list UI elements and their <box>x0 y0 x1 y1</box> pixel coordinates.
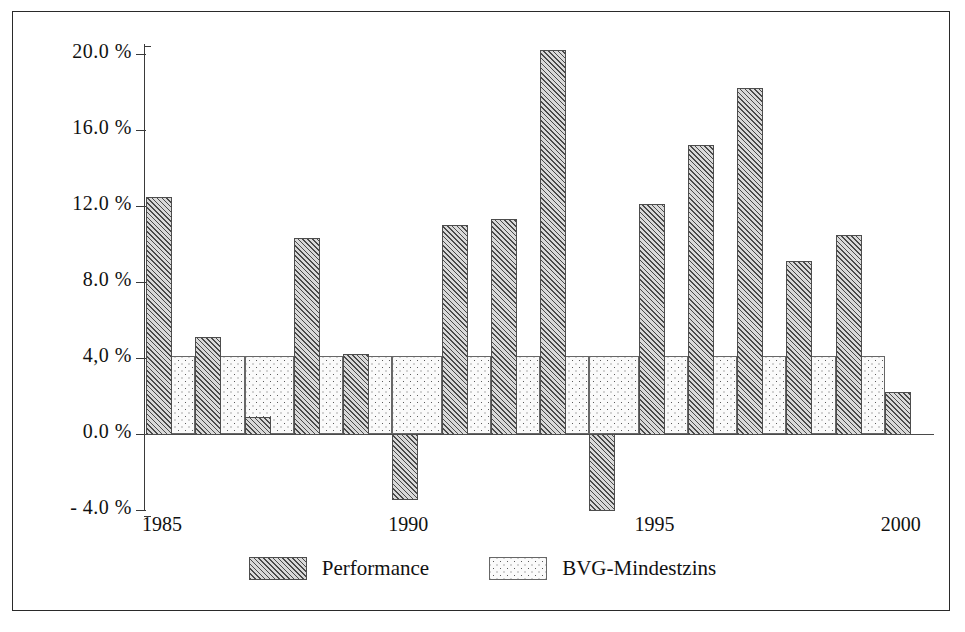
y-axis-tick-label: 12.0 % <box>72 192 132 215</box>
y-axis-tick <box>136 130 146 131</box>
bar-performance <box>540 50 566 435</box>
y-axis-tick-label: 8.0 % <box>83 268 132 291</box>
bar-performance <box>245 417 271 435</box>
legend-swatch-performance-icon <box>249 557 307 580</box>
y-axis-line <box>144 44 145 510</box>
bar-performance <box>786 261 812 435</box>
bar-performance <box>392 434 418 500</box>
y-axis-tick-label: 4,0 % <box>83 344 132 367</box>
y-axis-tick <box>136 206 146 207</box>
x-axis-tick-label: 2000 <box>881 513 921 536</box>
bar-performance <box>491 219 517 435</box>
bar-bvg-mindestzins <box>392 356 441 434</box>
legend-item: BVG-Mindestzins <box>489 556 716 581</box>
x-axis-tick-label: 1995 <box>635 513 675 536</box>
y-axis-end-cap <box>144 46 151 47</box>
bar-performance <box>442 225 468 435</box>
plot-area <box>146 44 934 512</box>
bar-performance <box>885 392 911 435</box>
y-axis-tick <box>136 358 146 359</box>
x-axis-tick-label: 1990 <box>388 513 428 536</box>
y-axis-labels: 20.0 %16.0 %12.0 %8.0 %4,0 %0.0 %- 4.0 % <box>0 0 132 632</box>
bar-performance <box>836 235 862 436</box>
y-axis-tick-label: 0.0 % <box>83 420 132 443</box>
bar-bvg-mindestzins <box>589 356 638 434</box>
bar-performance <box>589 434 615 511</box>
legend-label: BVG-Mindestzins <box>562 556 716 581</box>
chart-figure: 20.0 %16.0 %12.0 %8.0 %4,0 %0.0 %- 4.0 %… <box>0 0 965 632</box>
bar-performance <box>146 197 172 436</box>
bar-performance <box>688 145 714 435</box>
y-axis-tick-label: 20.0 % <box>72 40 132 63</box>
legend-item: Performance <box>249 556 429 581</box>
legend-swatch-bvg-mindestzins-icon <box>489 557 547 580</box>
y-axis-tick-label: 16.0 % <box>72 116 132 139</box>
y-axis-tick <box>136 510 146 511</box>
bar-performance <box>195 337 221 435</box>
bar-performance <box>343 354 369 435</box>
chart-legend: PerformanceBVG-Mindestzins <box>0 556 965 581</box>
y-axis-tick <box>136 54 146 55</box>
bar-performance <box>639 204 665 435</box>
bar-performance <box>294 238 320 435</box>
bar-performance <box>737 88 763 435</box>
y-axis-tick <box>136 282 146 283</box>
y-axis-end-cap <box>144 516 151 517</box>
legend-label: Performance <box>322 556 429 581</box>
y-axis-tick-label: - 4.0 % <box>70 496 132 519</box>
